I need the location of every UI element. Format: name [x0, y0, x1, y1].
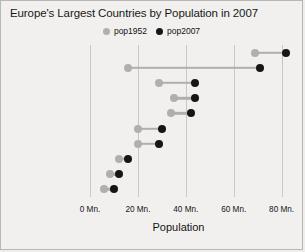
chart-row: Romania — [90, 151, 296, 166]
data-point-pop2007[interactable] — [187, 109, 195, 117]
chart-legend: pop1952 pop2007 — [1, 27, 302, 36]
plot-area: GermanyTurkeyFranceUnited KingdomItalySp… — [90, 45, 296, 197]
data-point-pop2007[interactable] — [282, 49, 290, 57]
chart-container: Europe's Largest Countries by Population… — [0, 0, 303, 250]
chart-row: Turkey — [90, 60, 296, 75]
connector-line — [128, 67, 260, 69]
data-point-pop1952[interactable] — [124, 64, 132, 72]
chart-row: Poland — [90, 136, 296, 151]
legend-item-pop1952: pop1952 — [103, 27, 147, 36]
x-tick-label: 0 Mn. — [80, 205, 100, 214]
data-point-pop2007[interactable] — [124, 155, 132, 163]
data-point-pop1952[interactable] — [134, 125, 142, 133]
x-axis-ticks: 0 Mn.20 Mn.40 Mn.60 Mn.80 Mn. — [90, 205, 294, 219]
chart-row: France — [90, 75, 296, 90]
data-point-pop2007[interactable] — [158, 125, 166, 133]
data-point-pop1952[interactable] — [134, 140, 142, 148]
data-point-pop1952[interactable] — [170, 94, 178, 102]
data-point-pop1952[interactable] — [167, 109, 175, 117]
legend-item-pop2007: pop2007 — [156, 27, 200, 36]
x-tick-label: 60 Mn. — [221, 205, 246, 214]
chart-row: Italy — [90, 106, 296, 121]
data-point-pop1952[interactable] — [251, 49, 259, 57]
chart-row: Greece — [90, 182, 296, 197]
legend-swatch-circle-icon — [156, 28, 163, 35]
x-tick-label: 20 Mn. — [125, 205, 150, 214]
data-point-pop2007[interactable] — [155, 140, 163, 148]
data-point-pop2007[interactable] — [191, 94, 199, 102]
chart-row: Germany — [90, 45, 296, 60]
x-tick-label: 40 Mn. — [173, 205, 198, 214]
chart-row: Spain — [90, 121, 296, 136]
data-point-pop2007[interactable] — [110, 185, 118, 193]
x-axis-label: Population — [1, 221, 304, 233]
data-point-pop2007[interactable] — [256, 64, 264, 72]
data-point-pop1952[interactable] — [106, 170, 114, 178]
x-axis-label-text: Population — [101, 221, 205, 233]
plot-wrapper: GermanyTurkeyFranceUnited KingdomItalySp… — [1, 45, 304, 205]
chart-title: Europe's Largest Countries by Population… — [10, 7, 258, 19]
legend-swatch-circle-icon — [103, 28, 110, 35]
data-point-pop2007[interactable] — [191, 79, 199, 87]
x-tick-label: 80 Mn. — [269, 205, 294, 214]
data-point-pop1952[interactable] — [115, 155, 123, 163]
chart-row: Netherlands — [90, 167, 296, 182]
data-point-pop2007[interactable] — [115, 170, 123, 178]
legend-label-pop1952: pop1952 — [114, 27, 147, 36]
data-point-pop1952[interactable] — [100, 185, 108, 193]
connector-line — [159, 82, 195, 84]
legend-label-pop2007: pop2007 — [167, 27, 200, 36]
data-point-pop1952[interactable] — [155, 79, 163, 87]
chart-row: United Kingdom — [90, 91, 296, 106]
